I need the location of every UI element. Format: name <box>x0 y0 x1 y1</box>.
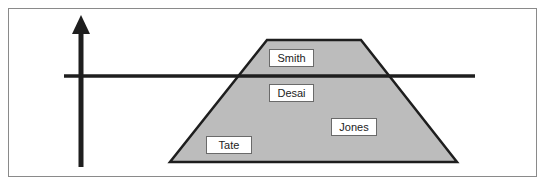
label-jones-text: Jones <box>339 121 368 133</box>
label-smith-text: Smith <box>277 52 305 64</box>
label-smith: Smith <box>269 49 314 67</box>
label-tate: Tate <box>206 136 252 154</box>
label-jones: Jones <box>331 118 377 136</box>
label-tate-text: Tate <box>219 139 240 151</box>
label-desai-text: Desai <box>277 87 305 99</box>
label-desai: Desai <box>269 84 314 102</box>
arrow-up-icon <box>72 15 90 34</box>
